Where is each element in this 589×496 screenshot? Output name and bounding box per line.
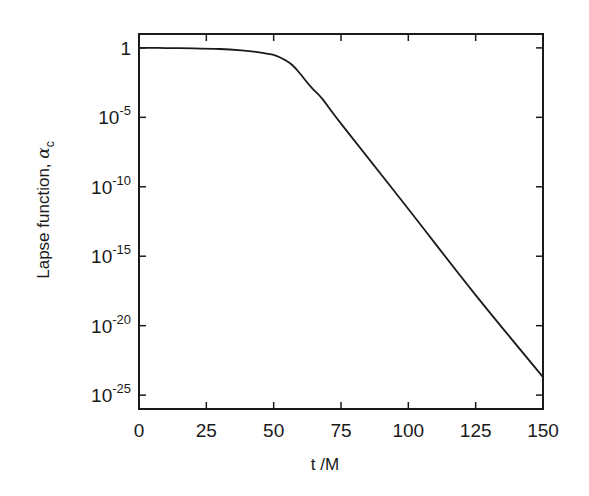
y-tick-label: 1: [120, 38, 131, 59]
x-tick-label: 125: [460, 420, 492, 441]
x-axis-ticks: 0255075100125150: [134, 34, 559, 441]
x-tick-label: 50: [263, 420, 284, 441]
plot-frame: [139, 34, 543, 409]
data-series: [139, 48, 543, 377]
x-tick-label: 0: [134, 420, 145, 441]
plot-border: [139, 34, 543, 409]
y-axis-title-subscript: c: [43, 141, 57, 147]
y-tick-label: 10-20: [91, 312, 131, 337]
lapse-function-chart: 0255075100125150 110-510-1010-1510-2010-…: [0, 0, 589, 496]
x-axis-title: t /M: [311, 455, 339, 474]
y-tick-label: 10-15: [91, 242, 131, 267]
lapse-curve: [139, 48, 543, 377]
y-tick-label: 10-10: [91, 173, 131, 198]
x-tick-label: 150: [527, 420, 559, 441]
y-axis-title-main: Lapse function,: [34, 159, 53, 279]
x-tick-label: 75: [330, 420, 351, 441]
x-tick-label: 100: [392, 420, 424, 441]
y-tick-label: 10-25: [91, 381, 131, 406]
y-axis-title-symbol: α: [33, 147, 53, 159]
y-axis-title: Lapse function, αc: [33, 141, 57, 279]
x-tick-label: 25: [196, 420, 217, 441]
y-tick-label: 10-5: [98, 103, 131, 128]
